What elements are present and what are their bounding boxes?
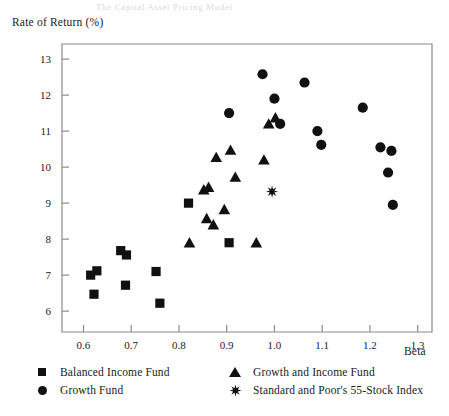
data-point-square <box>225 238 234 247</box>
scatter-plot-figure: The Capital Asset Pricing Model Rate of … <box>0 0 449 416</box>
legend-item-growth-and-income-fund: Growth and Income Fund <box>227 365 375 379</box>
legend-label: Standard and Poor's 55-Stock Index <box>253 384 423 396</box>
axes-frame <box>62 44 432 332</box>
data-point-square <box>122 250 131 259</box>
data-point-circle <box>224 108 234 118</box>
data-point-triangle <box>210 152 222 162</box>
legend-label: Balanced Income Fund <box>60 366 170 378</box>
data-point-square <box>155 299 164 308</box>
data-point-square <box>121 281 130 290</box>
data-point-square <box>92 266 101 275</box>
y-tick-label: 8 <box>46 233 52 245</box>
legend: Balanced Income Fund Growth Fund Growth … <box>0 364 449 416</box>
data-point-circle <box>312 126 322 136</box>
data-point-triangle <box>219 204 231 214</box>
data-point-square <box>89 290 98 299</box>
data-point-triangle <box>230 171 242 181</box>
y-tick-label: 6 <box>46 305 52 317</box>
data-point-circle <box>316 140 326 150</box>
x-tick-label: 1.3 <box>411 339 425 351</box>
data-point-circle <box>388 200 398 210</box>
data-point-square <box>151 267 160 276</box>
y-tick-label: 13 <box>40 53 52 65</box>
plot-area: 6789101112130.60.70.80.91.01.11.21.3 <box>0 0 449 364</box>
legend-item-balanced-income-fund: Balanced Income Fund <box>34 365 170 379</box>
square-marker-icon <box>34 365 50 379</box>
x-tick-label: 1.0 <box>268 339 282 351</box>
x-tick-label: 0.7 <box>124 339 138 351</box>
y-tick-label: 9 <box>46 197 52 209</box>
data-point-triangle <box>251 237 263 247</box>
data-point-triangle <box>258 154 270 164</box>
axis-ticks <box>62 59 418 332</box>
legend-item-sp-55-stock-index: Standard and Poor's 55-Stock Index <box>227 383 423 397</box>
triangle-marker-icon <box>227 365 243 379</box>
y-tick-label: 10 <box>40 161 52 173</box>
x-tick-label: 1.2 <box>363 339 377 351</box>
data-point-circle <box>375 142 385 152</box>
star-glyph <box>229 384 241 396</box>
circle-marker-icon <box>34 383 50 397</box>
y-tick-label: 7 <box>46 269 52 281</box>
data-points <box>86 69 398 308</box>
legend-item-growth-fund: Growth Fund <box>34 383 123 397</box>
data-point-triangle <box>225 144 237 154</box>
data-point-triangle <box>184 237 196 247</box>
data-point-star <box>266 185 278 197</box>
data-point-circle <box>383 167 393 177</box>
data-point-circle <box>358 103 368 113</box>
data-point-circle <box>257 69 267 79</box>
data-point-circle <box>299 77 309 87</box>
data-point-triangle <box>270 112 282 122</box>
axis-tick-labels: 6789101112130.60.70.80.91.01.11.21.3 <box>40 53 425 351</box>
y-tick-label: 12 <box>40 89 51 101</box>
data-point-circle <box>269 94 279 104</box>
legend-label: Growth Fund <box>60 384 123 396</box>
y-tick-label: 11 <box>40 125 51 137</box>
data-point-triangle <box>201 213 213 223</box>
star-marker-icon <box>227 383 243 397</box>
data-point-square <box>184 199 193 208</box>
legend-label: Growth and Income Fund <box>253 366 375 378</box>
x-tick-label: 1.1 <box>315 339 329 351</box>
x-tick-label: 0.6 <box>77 339 91 351</box>
x-tick-label: 0.9 <box>220 339 234 351</box>
data-point-circle <box>386 146 396 156</box>
x-tick-label: 0.8 <box>172 339 186 351</box>
